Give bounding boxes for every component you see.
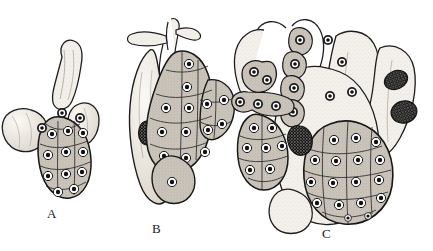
figure-label-b: B [152, 221, 161, 237]
cell-cluster-c-upperleft [242, 61, 276, 93]
figure-label-a: A [47, 206, 57, 222]
figure-label-c: C [322, 226, 331, 242]
nucleus-c-granular-left [288, 126, 313, 156]
figure-plate: A B C [0, 0, 433, 251]
histology-illustration [0, 0, 433, 251]
cell-mass-c-main [304, 121, 393, 224]
duct-b-branch-left [128, 32, 168, 46]
